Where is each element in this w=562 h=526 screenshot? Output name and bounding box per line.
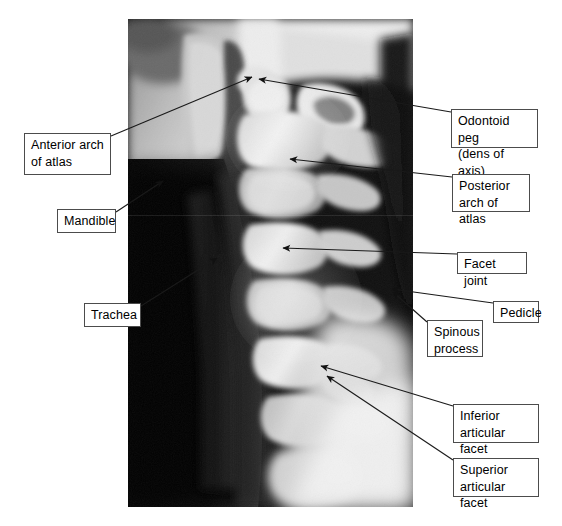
label-pedicle: Pedicle [493,301,539,323]
label-posterior-arch-of-atlas: Posterior arch of atlas [452,174,530,212]
radiograph-image [128,19,413,507]
label-facet-joint: Facet joint [457,252,527,274]
label-odontoid-peg: Odontoid peg (dens of axis) [451,109,538,148]
figure-canvas: Anterior arch of atlasMandibleTracheaOdo… [0,0,562,526]
label-inferior-articular-facet: Inferior articular facet [453,404,539,443]
label-spinous-process: Spinous process [427,320,483,357]
label-anterior-arch-of-atlas: Anterior arch of atlas [24,133,111,175]
label-trachea: Trachea [84,303,141,327]
label-superior-articular-facet: Superior articular facet [453,458,539,497]
lateral-cervical-spine-radiograph [128,19,413,507]
label-mandible: Mandible [57,209,116,233]
